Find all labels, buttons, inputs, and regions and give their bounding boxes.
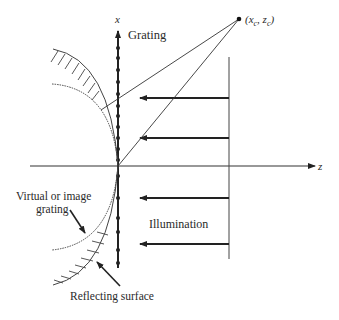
grating-label: Grating <box>128 28 166 43</box>
x-axis-label: x <box>115 13 120 25</box>
diagram-canvas: x z Grating (xc, zc) Illumination Virtua… <box>0 0 339 320</box>
diagram-svg <box>0 0 339 320</box>
z-axis-label: z <box>318 160 322 172</box>
point-coordinate-label: (xc, zc) <box>245 13 274 28</box>
illumination-label: Illumination <box>149 217 208 232</box>
reflecting-surface-label: Reflecting surface <box>70 290 154 302</box>
focus-point <box>237 17 242 22</box>
virtual-grating-label-line2: grating <box>36 203 69 215</box>
reflecting-surface-curve <box>53 49 118 285</box>
point-label-close: ) <box>270 13 274 25</box>
point-label-open: (x <box>245 13 254 25</box>
ray-upper <box>101 19 239 110</box>
point-label-mid: , z <box>257 13 267 25</box>
hatch-marks-lower <box>54 232 108 283</box>
virtual-grating-pointer <box>70 210 85 233</box>
virtual-grating-label-line1: Virtual or image <box>16 190 91 202</box>
reflecting-surface-pointer <box>97 262 120 286</box>
